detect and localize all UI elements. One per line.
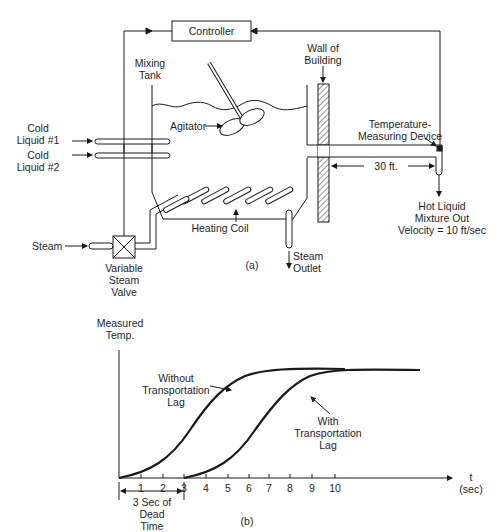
distance-label: 30 ft. xyxy=(364,160,408,172)
x-tick-label: 2 xyxy=(155,482,171,494)
mixing-tank-label: Mixing Tank xyxy=(125,57,175,81)
x-axis-label: t (sec) xyxy=(456,471,486,495)
x-tick-label: 3 xyxy=(176,482,192,494)
x-ticks xyxy=(141,474,335,478)
temperature-device-label: Temperature- Measuring Device xyxy=(350,118,450,142)
x-tick-label: 10 xyxy=(327,482,343,494)
x-tick-label: 4 xyxy=(198,482,214,494)
heating-coil-label: Heating Coil xyxy=(190,222,250,234)
arrow-icon xyxy=(251,28,257,34)
x-tick-label: 9 xyxy=(304,482,320,494)
x-tick-label: 7 xyxy=(261,482,277,494)
y-axis-label: Measured Temp. xyxy=(92,317,148,341)
arrow-icon xyxy=(146,28,152,34)
x-tick-label: 8 xyxy=(282,482,298,494)
cold-liquid-1-pipe xyxy=(95,139,170,144)
with-lag-label: With Transportation Lag xyxy=(292,415,364,451)
temperature-sensor xyxy=(437,146,442,151)
steam-label: Steam xyxy=(32,240,62,252)
x-tick-label: 5 xyxy=(220,482,236,494)
cold-liquid-2-pipe xyxy=(95,153,170,158)
steam-outlet-pipe xyxy=(286,210,292,248)
cold-liquid-2-label: Cold Liquid #2 xyxy=(10,149,66,173)
hot-liquid-out-label: Hot Liquid Mixture Out Velocity = 10 ft/… xyxy=(392,200,492,236)
x-tick-label: 1 xyxy=(133,482,149,494)
dead-time-label: 3 Sec of Dead Time xyxy=(125,496,179,532)
controller-label: Controller xyxy=(172,25,251,37)
variable-steam-valve-label: Variable Steam Valve xyxy=(100,262,148,298)
x-tick-label: 6 xyxy=(241,482,257,494)
agitator-label: Agitator xyxy=(170,120,206,132)
wall-of-building-label: Wall of Building xyxy=(295,42,351,66)
caption-b: (b) xyxy=(239,515,255,527)
without-lag-label: Without Transportation Lag xyxy=(140,372,212,408)
caption-a: (a) xyxy=(244,259,260,271)
cold-liquid-1-label: Cold Liquid #1 xyxy=(10,122,66,146)
steam-outlet-label: Steam Outlet xyxy=(293,250,323,274)
steam-inlet-pipe xyxy=(89,243,113,249)
liquid-surface xyxy=(152,100,307,109)
